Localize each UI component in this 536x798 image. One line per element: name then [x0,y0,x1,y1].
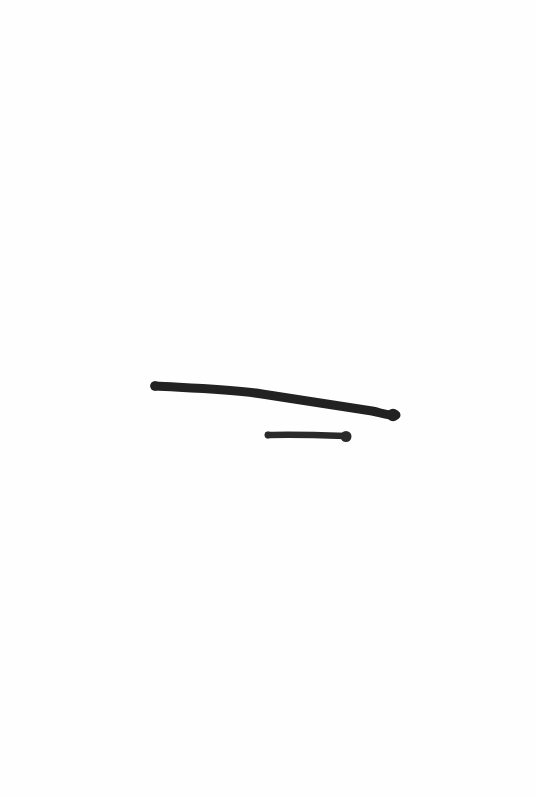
stroke-layer [0,0,536,798]
long-stroke-start-cap [150,381,160,391]
short-stroke [265,431,352,442]
long-stroke [150,381,399,421]
short-stroke-start-cap [265,432,272,439]
short-stroke-path [268,435,346,436]
short-stroke-end-cap [341,431,352,442]
long-stroke-end-cap [387,409,399,421]
drawing-canvas [0,0,536,798]
long-stroke-path [155,386,396,415]
